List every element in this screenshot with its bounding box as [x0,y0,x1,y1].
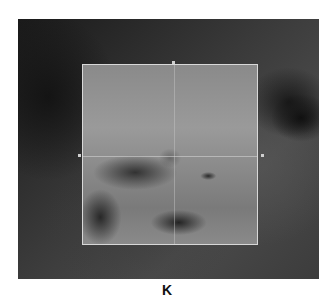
crosshair-horizontal [83,156,257,157]
panel-label: K [0,282,334,298]
crosshair-marker-right [261,154,264,157]
crosshair-vertical [174,65,175,244]
fundus-image [18,19,319,279]
crosshair-marker-left [78,154,81,157]
crosshair-marker-top [172,61,175,64]
oct-scan-area[interactable] [82,64,258,245]
